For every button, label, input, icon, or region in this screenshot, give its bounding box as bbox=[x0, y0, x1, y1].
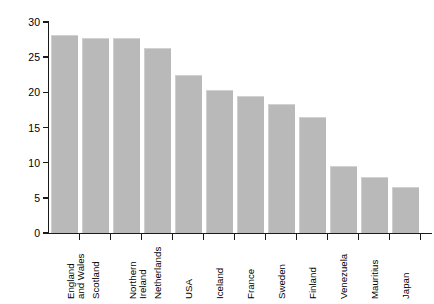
x-axis-tick bbox=[420, 234, 421, 240]
x-axis-tick bbox=[110, 234, 111, 240]
bar-chart: Rate per 1000 women 051015202530 England… bbox=[0, 0, 434, 304]
x-axis-category-label: Venezuela bbox=[339, 233, 349, 299]
bar bbox=[268, 104, 295, 233]
x-axis-category-label: England and Wales bbox=[66, 233, 87, 299]
y-axis-tick-label: 0 bbox=[8, 228, 40, 238]
x-axis-category-label: Sweden bbox=[277, 233, 287, 299]
y-axis-tick-label: 30 bbox=[8, 17, 40, 27]
x-axis-category-label: France bbox=[246, 233, 256, 299]
bar bbox=[175, 75, 202, 233]
x-axis-category-label: USA bbox=[184, 233, 194, 299]
x-axis-tick bbox=[234, 234, 235, 240]
bar bbox=[51, 35, 78, 233]
x-axis-category-label: Iceland bbox=[215, 233, 225, 299]
x-axis-tick bbox=[172, 234, 173, 240]
x-axis-category-label: Scotland bbox=[91, 233, 101, 299]
y-axis-tick-label: 5 bbox=[8, 193, 40, 203]
y-axis-tick bbox=[43, 56, 49, 57]
x-axis-tick bbox=[389, 234, 390, 240]
x-axis-category-label: Northern Ireland bbox=[128, 233, 149, 299]
x-axis-category-label: Netherlands bbox=[153, 233, 163, 299]
bar bbox=[361, 177, 388, 233]
y-axis-tick-label: 25 bbox=[8, 52, 40, 62]
bar bbox=[206, 90, 233, 233]
bar bbox=[299, 117, 326, 233]
y-axis-tick bbox=[43, 197, 49, 198]
y-axis-tick-label: 10 bbox=[8, 158, 40, 168]
bar bbox=[82, 38, 109, 233]
bar bbox=[330, 166, 357, 233]
x-axis-tick bbox=[327, 234, 328, 240]
y-axis-tick-label: 15 bbox=[8, 123, 40, 133]
bar bbox=[237, 96, 264, 233]
x-axis-tick bbox=[358, 234, 359, 240]
bar bbox=[392, 187, 419, 233]
bar bbox=[144, 48, 171, 233]
bar bbox=[113, 38, 140, 233]
x-axis-category-label: Finland bbox=[308, 233, 318, 299]
x-axis-tick bbox=[296, 234, 297, 240]
x-axis-category-label: Mauritius bbox=[370, 233, 380, 299]
y-axis-tick bbox=[43, 162, 49, 163]
y-axis-tick bbox=[43, 232, 49, 233]
x-axis-tick bbox=[203, 234, 204, 240]
x-axis-tick bbox=[265, 234, 266, 240]
y-axis-tick bbox=[43, 92, 49, 93]
x-axis-category-label: Japan bbox=[401, 233, 411, 299]
y-axis-tick-label: 20 bbox=[8, 87, 40, 97]
y-axis-tick bbox=[43, 21, 49, 22]
y-axis-tick bbox=[43, 127, 49, 128]
